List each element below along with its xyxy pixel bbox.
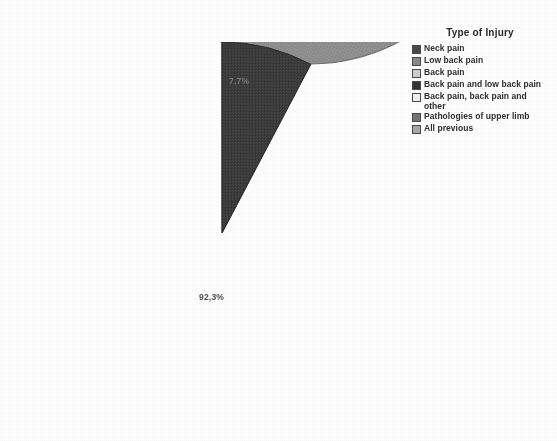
legend-item: Back pain, back pain and other	[412, 92, 554, 111]
pie-label-small-slice: 7,7%	[229, 76, 249, 86]
pie-graphic: 7,7% 92,3%	[31, 42, 413, 424]
legend-swatch-icon	[412, 125, 421, 134]
legend-item: All previous	[412, 124, 554, 135]
legend-item-label: Pathologies of upper limb	[424, 112, 530, 122]
legend-item: Pathologies of upper limb	[412, 112, 554, 123]
legend-swatch-icon	[412, 69, 421, 78]
legend-item-label: Neck pain	[424, 44, 465, 54]
legend-item-label: Back pain and low back pain	[424, 80, 541, 90]
legend-swatch-icon	[412, 45, 421, 54]
legend-item-label: All previous	[424, 124, 473, 134]
legend-swatch-icon	[412, 57, 421, 66]
pie-label-large-slice: 92,3%	[199, 292, 224, 302]
legend-swatch-icon	[412, 113, 421, 122]
legend-title: Type of Injury	[412, 27, 548, 38]
legend-swatch-icon	[412, 93, 421, 102]
legend-swatch-icon	[412, 81, 421, 90]
legend-item: Low back pain	[412, 56, 554, 67]
legend-item: Back pain and low back pain	[412, 80, 554, 91]
legend-item-label: Back pain	[424, 68, 465, 78]
pie-slice-small	[222, 42, 311, 233]
legend-item: Back pain	[412, 68, 554, 79]
pie-svg	[31, 42, 413, 424]
legend-item-list: Neck pain Low back pain Back pain Back p…	[412, 44, 554, 135]
legend-item-label: Low back pain	[424, 56, 483, 66]
legend-item: Neck pain	[412, 44, 554, 55]
chart-legend: Type of Injury Neck pain Low back pain B…	[412, 27, 554, 136]
pie-chart-figure: 7,7% 92,3% Type of Injury Neck pain Low …	[0, 0, 557, 441]
legend-item-label: Back pain, back pain and other	[424, 92, 550, 111]
